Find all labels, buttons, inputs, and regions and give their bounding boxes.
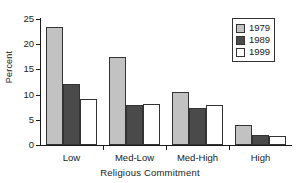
y-axis-tick-label: 20: [18, 39, 34, 49]
y-axis-tick-label: 10: [18, 90, 34, 100]
bar: [235, 125, 252, 145]
y-axis-tick-mark: [36, 44, 40, 45]
bar: [46, 27, 63, 145]
bar-chart-figure: Percent 0510152025 Religious Commitment …: [0, 0, 300, 183]
y-axis-tick-label: 25: [18, 14, 34, 24]
legend-swatch-1989: [236, 36, 245, 45]
bar: [172, 92, 189, 145]
legend-swatch-1979: [236, 24, 245, 33]
x-axis-category-label: Med-Low: [115, 152, 154, 163]
bar: [109, 57, 126, 145]
x-axis-title: Religious Commitment: [0, 167, 300, 178]
x-axis-category-label: High: [251, 152, 271, 163]
legend-item: 1979: [236, 22, 270, 34]
bar: [63, 84, 80, 145]
bar: [80, 99, 97, 145]
x-axis-tick-mark: [229, 146, 230, 150]
legend-swatch-1999: [236, 48, 245, 57]
y-axis-tick-label: 5: [18, 115, 34, 125]
y-axis-tick-mark: [36, 19, 40, 20]
legend-label: 1979: [249, 23, 270, 33]
y-axis-tick-mark: [36, 95, 40, 96]
bar: [269, 136, 286, 145]
legend-item: 1999: [236, 46, 270, 58]
bar: [126, 105, 143, 145]
y-axis-tick-mark: [36, 145, 40, 146]
bar: [252, 135, 269, 145]
x-axis-tick-mark: [103, 146, 104, 150]
legend: 197919891999: [232, 18, 275, 62]
bar: [189, 108, 206, 145]
legend-label: 1989: [249, 35, 270, 45]
x-axis-category-label: Med-High: [177, 152, 218, 163]
x-axis-tick-mark: [166, 146, 167, 150]
bar: [143, 104, 160, 145]
x-axis-category-label: Low: [63, 152, 80, 163]
legend-item: 1989: [236, 34, 270, 46]
y-axis-tick-mark: [36, 120, 40, 121]
y-axis-tick-label: 0: [18, 140, 34, 150]
y-axis-tick-label: 15: [18, 64, 34, 74]
y-axis-title: Percent: [4, 37, 14, 97]
bar: [206, 105, 223, 145]
y-axis-tick-mark: [36, 69, 40, 70]
y-axis-tick-labels: 0510152025: [18, 0, 34, 183]
legend-label: 1999: [249, 47, 270, 57]
